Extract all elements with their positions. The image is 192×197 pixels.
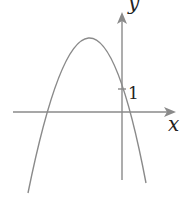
x-axis xyxy=(13,107,176,117)
parabola-diagram: 1 x y xyxy=(0,0,192,197)
x-axis-label: x xyxy=(168,112,179,136)
parabola-curve xyxy=(28,38,146,193)
tick-label-1: 1 xyxy=(128,83,139,103)
y-axis-label: y xyxy=(127,0,140,15)
